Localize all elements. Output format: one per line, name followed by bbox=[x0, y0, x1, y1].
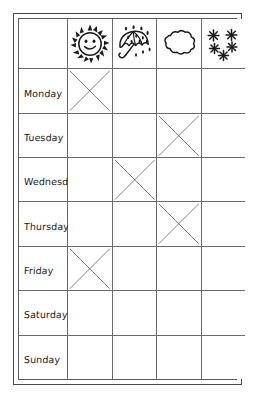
day-label-cell-wednesday: Wednesday bbox=[19, 158, 68, 202]
cell-saturday-cloudy[interactable] bbox=[157, 291, 202, 335]
cell-sunday-rainy[interactable] bbox=[112, 335, 157, 379]
cell-wednesday-sunny[interactable] bbox=[68, 158, 113, 202]
table-row: Saturday bbox=[19, 291, 245, 335]
cell-thursday-cloudy[interactable] bbox=[157, 202, 202, 246]
header-cell-snowy[interactable] bbox=[201, 19, 245, 69]
cell-monday-snowy[interactable] bbox=[201, 69, 245, 113]
cell-wednesday-snowy[interactable] bbox=[201, 158, 245, 202]
cell-saturday-snowy[interactable] bbox=[201, 291, 245, 335]
x-mark bbox=[158, 203, 200, 245]
cell-monday-cloudy[interactable] bbox=[157, 69, 202, 113]
table-row: Friday bbox=[19, 246, 245, 290]
cloud-icon bbox=[159, 24, 199, 64]
cell-tuesday-snowy[interactable] bbox=[201, 113, 245, 157]
x-mark bbox=[69, 70, 111, 112]
cell-wednesday-rainy[interactable] bbox=[112, 158, 157, 202]
table-header-row bbox=[19, 19, 245, 69]
x-mark bbox=[114, 159, 156, 201]
table-row: Wednesday bbox=[19, 158, 245, 202]
cell-sunday-snowy[interactable] bbox=[201, 335, 245, 379]
cell-sunday-cloudy[interactable] bbox=[157, 335, 202, 379]
cell-friday-rainy[interactable] bbox=[112, 246, 157, 290]
day-label: Saturday bbox=[19, 309, 68, 320]
day-label-cell-sunday: Sunday bbox=[19, 335, 68, 379]
day-label: Tuesday bbox=[19, 132, 64, 143]
cell-tuesday-sunny[interactable] bbox=[68, 113, 113, 157]
header-cell-cloudy[interactable] bbox=[157, 19, 202, 69]
cell-friday-sunny[interactable] bbox=[68, 246, 113, 290]
cell-thursday-rainy[interactable] bbox=[112, 202, 157, 246]
table-row: Sunday bbox=[19, 335, 245, 379]
cell-friday-cloudy[interactable] bbox=[157, 246, 202, 290]
cell-saturday-sunny[interactable] bbox=[68, 291, 113, 335]
cell-monday-rainy[interactable] bbox=[112, 69, 157, 113]
sun-icon bbox=[70, 24, 110, 64]
day-label-cell-saturday: Saturday bbox=[19, 291, 68, 335]
cell-thursday-sunny[interactable] bbox=[68, 202, 113, 246]
header-cell-sunny[interactable] bbox=[68, 19, 113, 69]
cell-wednesday-cloudy[interactable] bbox=[157, 158, 202, 202]
day-label-cell-monday: Monday bbox=[19, 69, 68, 113]
cell-saturday-rainy[interactable] bbox=[112, 291, 157, 335]
table-row: Thursday bbox=[19, 202, 245, 246]
day-label-cell-thursday: Thursday bbox=[19, 202, 68, 246]
chart-outer-frame: Monday Tuesday bbox=[13, 13, 242, 385]
day-label-cell-friday: Friday bbox=[19, 246, 68, 290]
header-corner-cell bbox=[19, 19, 68, 69]
cell-tuesday-cloudy[interactable] bbox=[157, 113, 202, 157]
day-label: Monday bbox=[19, 88, 63, 99]
cell-tuesday-rainy[interactable] bbox=[112, 113, 157, 157]
cell-sunday-sunny[interactable] bbox=[68, 335, 113, 379]
cell-friday-snowy[interactable] bbox=[201, 246, 245, 290]
day-label-cell-tuesday: Tuesday bbox=[19, 113, 68, 157]
cell-thursday-snowy[interactable] bbox=[201, 202, 245, 246]
day-label: Sunday bbox=[19, 354, 61, 365]
day-label: Thursday bbox=[19, 221, 70, 232]
chart-inner-frame: Monday Tuesday bbox=[18, 18, 237, 380]
x-mark bbox=[158, 115, 200, 157]
table-row: Monday bbox=[19, 69, 245, 113]
table-row: Tuesday bbox=[19, 113, 245, 157]
header-cell-rainy[interactable] bbox=[112, 19, 157, 69]
day-label: Friday bbox=[19, 265, 54, 276]
x-mark bbox=[69, 248, 111, 290]
weather-chart-table: Monday Tuesday bbox=[19, 19, 245, 379]
snowflakes-icon bbox=[203, 24, 243, 64]
cell-monday-sunny[interactable] bbox=[68, 69, 113, 113]
umbrella-rain-icon bbox=[114, 24, 154, 64]
